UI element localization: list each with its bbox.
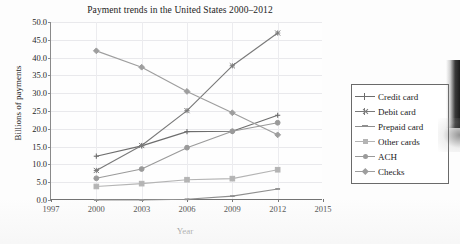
- data-point-marker-diamond: [275, 132, 281, 138]
- y-axis-tick-label: 45.0: [32, 35, 47, 45]
- legend-key-diamond-icon: [355, 166, 375, 178]
- data-point-marker-plus: [94, 154, 99, 159]
- x-axis-tick-label: 2015: [315, 204, 332, 214]
- data-point-marker-circle: [275, 120, 280, 125]
- legend-label: Debit card: [375, 107, 416, 117]
- legend-item-prepaid-card[interactable]: Prepaid card: [355, 119, 444, 134]
- y-axis-tick-label: 35.0: [32, 70, 47, 80]
- data-point-marker-square: [139, 181, 144, 186]
- legend-label: Other cards: [375, 137, 420, 147]
- chart-legend: Credit cardDebit cardPrepaid cardOther c…: [351, 84, 449, 184]
- y-axis-label: Billions of payments: [13, 33, 23, 173]
- legend-label: Checks: [375, 167, 405, 177]
- legend-item-other-cards[interactable]: Other cards: [355, 134, 444, 149]
- x-axis-tick-label: 2006: [179, 204, 196, 214]
- series-prepaid-card: [94, 189, 280, 200]
- data-point-marker-diamond: [184, 89, 190, 95]
- data-point-marker-diamond: [93, 48, 99, 54]
- x-axis-tick-label: 2000: [88, 204, 105, 214]
- chart-figure: Payment trends in the United States 2000…: [0, 0, 460, 244]
- legend-key-dash-icon: [355, 121, 375, 133]
- data-point-marker-plus: [275, 113, 280, 118]
- data-point-marker-cross: [230, 63, 235, 68]
- data-point-marker-cross: [94, 168, 99, 173]
- y-axis-tick-label: 25.0: [32, 106, 47, 116]
- data-point-marker-square: [275, 167, 280, 172]
- legend-item-ach[interactable]: ACH: [355, 149, 444, 164]
- legend-item-checks[interactable]: Checks: [355, 164, 444, 179]
- x-axis-label: Year: [50, 226, 320, 236]
- data-point-marker-square: [185, 177, 190, 182]
- series-layer: [51, 22, 323, 200]
- y-axis-tick-label: 20.0: [32, 124, 47, 134]
- legend-item-debit-card[interactable]: Debit card: [355, 104, 444, 119]
- series-line: [96, 189, 277, 200]
- legend-label: Credit card: [375, 92, 418, 102]
- legend-key-cross-icon: [355, 106, 375, 118]
- series-other-cards: [94, 167, 280, 188]
- y-axis-tick-label: 5.0: [36, 177, 47, 187]
- y-axis-tick-label: 50.0: [32, 17, 47, 27]
- data-point-marker-circle: [230, 129, 235, 134]
- y-axis-tick-label: 15.0: [32, 142, 47, 152]
- legend-key-marker: [362, 108, 369, 115]
- legend-key-marker-diag2: [360, 107, 370, 117]
- y-axis-tick-label: 30.0: [32, 88, 47, 98]
- data-point-marker-cross: [184, 108, 189, 113]
- x-axis-tick-label: 2009: [224, 204, 241, 214]
- plot-area: 0.05.010.015.020.025.030.035.040.045.050…: [50, 22, 322, 200]
- legend-key-plus-icon: [355, 91, 375, 103]
- y-axis-tick-label: 40.0: [32, 53, 47, 63]
- data-point-marker-square: [230, 176, 235, 181]
- legend-item-credit-card[interactable]: Credit card: [355, 89, 444, 104]
- data-point-marker-square: [94, 184, 99, 189]
- data-point-marker-plus: [184, 129, 189, 134]
- legend-key-marker: [362, 93, 369, 100]
- legend-key-marker: [362, 168, 368, 174]
- legend-label: ACH: [375, 152, 397, 162]
- legend-key-marker: [363, 139, 368, 144]
- data-point-marker-cross: [139, 143, 144, 148]
- chart-title: Payment trends in the United States 2000…: [0, 5, 360, 15]
- x-axis-tick-label: 2012: [269, 204, 286, 214]
- data-point-marker-circle: [139, 167, 144, 172]
- legend-key-circle-icon: [355, 151, 375, 163]
- data-point-marker-diamond: [139, 64, 145, 70]
- x-axis-tick-mark: [323, 199, 324, 202]
- data-point-marker-circle: [185, 145, 190, 150]
- x-axis-tick-label: 1997: [43, 204, 60, 214]
- data-point-marker-circle: [94, 176, 99, 181]
- legend-label: Prepaid card: [375, 122, 423, 132]
- series-debit-card: [94, 30, 281, 173]
- legend-key-marker: [362, 125, 368, 127]
- series-credit-card: [94, 113, 281, 159]
- data-point-marker-diamond: [229, 110, 235, 116]
- x-axis-tick-label: 2003: [133, 204, 150, 214]
- legend-key-square-icon: [355, 136, 375, 148]
- data-point-marker-cross: [275, 30, 280, 35]
- legend-key-marker: [363, 154, 368, 159]
- y-axis-tick-label: 10.0: [32, 159, 47, 169]
